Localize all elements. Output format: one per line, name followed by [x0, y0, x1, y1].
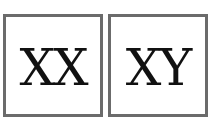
- label-xx: XX: [19, 43, 86, 93]
- label-xy: XY: [126, 43, 191, 93]
- karyotype-box-xx: XX: [3, 14, 103, 117]
- karyotype-box-xy: XY: [108, 14, 208, 117]
